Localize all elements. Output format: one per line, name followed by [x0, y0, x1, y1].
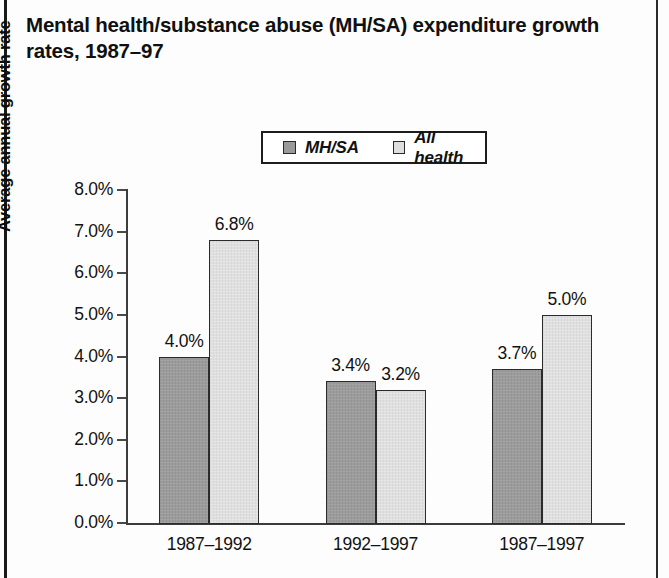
y-axis-tick — [117, 356, 126, 358]
y-axis-tick-label: 3.0% — [41, 387, 113, 408]
y-axis-tick-label: 5.0% — [41, 304, 113, 325]
y-axis-title: Average annual growth rate — [0, 21, 14, 233]
y-axis-tick — [117, 397, 126, 399]
x-axis-category-label: 1992–1997 — [292, 534, 458, 555]
chart-title: Mental health/substance abuse (MH/SA) ex… — [26, 12, 626, 64]
y-axis-tick-label: 7.0% — [41, 221, 113, 242]
x-axis-category-label: 1987–1997 — [459, 534, 625, 555]
y-axis-line — [126, 189, 128, 524]
plot-area: 4.0%6.8%3.4%3.2%3.7%5.0% 1987–19921992–1… — [126, 190, 625, 523]
legend-item-all-health: All health — [393, 133, 485, 162]
legend-label-all-health: All health — [414, 128, 485, 168]
y-axis-tick — [117, 522, 126, 524]
legend-swatch-all-health-icon — [393, 141, 405, 154]
y-axis-tick — [117, 314, 126, 316]
bar-value-label: 3.2% — [368, 364, 434, 385]
y-axis-tick-label: 6.0% — [41, 262, 113, 283]
y-axis-tick — [117, 189, 126, 191]
bar-value-label: 3.7% — [484, 343, 550, 364]
bar-value-label: 4.0% — [151, 331, 217, 352]
figure-page: Mental health/substance abuse (MH/SA) ex… — [0, 0, 669, 578]
y-axis-tick — [117, 439, 126, 441]
y-axis-tick — [117, 231, 126, 233]
legend-label-mhsa: MH/SA — [305, 138, 359, 158]
bar-value-label: 5.0% — [534, 289, 600, 310]
bar-mh-sa-1987-1997 — [492, 369, 542, 524]
y-axis-tick-label: 1.0% — [41, 470, 113, 491]
bar-all-health-1992-1997 — [376, 390, 426, 524]
y-axis-tick-label: 4.0% — [41, 346, 113, 367]
bar-value-label: 6.8% — [201, 214, 267, 235]
y-axis-tick-label: 2.0% — [41, 429, 113, 450]
y-axis-tick — [117, 272, 126, 274]
legend-item-mhsa: MH/SA — [283, 133, 359, 162]
y-axis-tick-label: 8.0% — [41, 179, 113, 200]
bar-all-health-1987-1997 — [542, 315, 592, 524]
page-frame-right-rule — [656, 0, 658, 578]
y-axis-tick-label: 0.0% — [41, 512, 113, 533]
chart-legend: MH/SA All health — [261, 131, 487, 164]
bar-mh-sa-1992-1997 — [326, 381, 376, 524]
y-axis-tick — [117, 480, 126, 482]
legend-swatch-mhsa-icon — [283, 141, 296, 154]
x-axis-category-label: 1987–1992 — [126, 534, 292, 555]
bar-all-health-1987-1992 — [209, 240, 259, 524]
bar-mh-sa-1987-1992 — [159, 357, 209, 525]
